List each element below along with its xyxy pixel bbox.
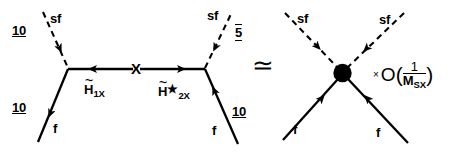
fraction-numerator: 1 xyxy=(411,60,418,73)
right-lower-left-f-label: f xyxy=(293,123,297,136)
propagator-right-field-label: ~H★2X xyxy=(158,82,190,101)
fraction-denominator: MSX xyxy=(403,73,427,89)
mass-symbol: M xyxy=(403,73,414,88)
left-upper-right-rep-label: 5 xyxy=(235,24,242,41)
mass-subscript: SX xyxy=(413,79,426,90)
propagator-left-field-label: ~H1X xyxy=(84,82,105,99)
effective-vertex-blob xyxy=(333,64,351,82)
left-upper-right-sf-label: sf xyxy=(207,9,218,22)
big-o-symbol: O xyxy=(381,64,396,86)
left-field-subscript: 1X xyxy=(93,88,104,99)
multiplication-sign-icon: × xyxy=(373,69,379,80)
feynman-diagram-figure: sf 10 sf 5 10 f 10 f X ~H1X ~H★2X ≃ sf s… xyxy=(0,0,455,153)
right-upper-left-sf-label: sf xyxy=(297,12,308,25)
right-upper-right-sf-label: sf xyxy=(379,13,390,26)
close-paren: ) xyxy=(426,64,433,85)
tilde-accent-icon: ~ xyxy=(85,75,93,86)
right-field-subscript: 2X xyxy=(178,90,189,101)
complex-conjugate-star-icon: ★ xyxy=(167,82,178,96)
left-lower-right-f-label: f xyxy=(212,124,216,137)
right-upper-right-sf-line xyxy=(348,13,404,67)
left-lower-left-f-label: f xyxy=(53,122,57,135)
inverse-mass-fraction: 1 MSX xyxy=(403,60,427,89)
left-upper-left-sf-label: sf xyxy=(50,12,61,25)
right-upper-left-sf-line xyxy=(285,13,337,67)
approximately-equal-symbol: ≃ xyxy=(252,52,274,78)
left-diagram-group xyxy=(38,12,238,144)
right-lower-right-f-label: f xyxy=(376,126,380,139)
left-lower-right-rep-label: 10 xyxy=(232,105,246,118)
mass-insertion-label: X xyxy=(131,61,141,76)
right-lower-left-f-line xyxy=(283,79,338,140)
tilde-accent-icon: ~ xyxy=(159,77,167,88)
left-lower-left-rep-label: 10 xyxy=(12,101,26,114)
order-factor-expression: × O ( 1 MSX ) xyxy=(373,60,433,89)
left-upper-left-rep-label: 10 xyxy=(12,24,26,37)
open-paren: ( xyxy=(396,64,403,85)
